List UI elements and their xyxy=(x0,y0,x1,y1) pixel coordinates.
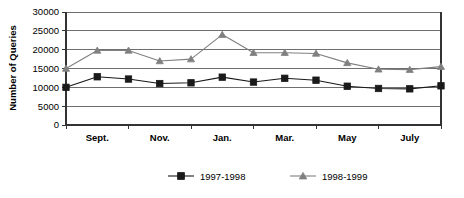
x-axis-tick-labels: Sept.Nov.Jan.Mar.MayJuly xyxy=(86,132,420,143)
y-tick-label: 20000 xyxy=(33,44,59,55)
data-point-marker-square xyxy=(188,80,194,86)
data-point-marker-square xyxy=(438,83,444,89)
x-tick-label: Jan. xyxy=(213,132,232,143)
x-tick-label: July xyxy=(400,132,420,143)
y-tick-label: 10000 xyxy=(33,82,59,93)
y-tick-label: 15000 xyxy=(33,63,59,74)
data-point-marker-square xyxy=(313,77,319,83)
y-axis-tick-labels: 050001000015000200002500030000 xyxy=(33,6,59,130)
x-tick-label: Sept. xyxy=(86,132,109,143)
data-point-marker-square xyxy=(219,74,225,80)
y-tick-label: 0 xyxy=(54,119,59,130)
y-tick-label: 25000 xyxy=(33,25,59,36)
x-tick-label: May xyxy=(338,132,357,143)
data-point-marker-square xyxy=(407,86,413,92)
data-point-marker-square xyxy=(282,75,288,81)
data-point-marker-square xyxy=(375,85,381,91)
legend-item-1[interactable]: 1997-1998 xyxy=(168,171,245,182)
x-tick-label: Nov. xyxy=(150,132,170,143)
legend-label: 1998-1999 xyxy=(322,171,367,182)
x-tick-label: Mar. xyxy=(275,132,294,143)
chart-legend: 1997-19981998-1999 xyxy=(168,171,367,182)
data-point-marker-square xyxy=(125,76,131,82)
y-axis-title: Number of Queries xyxy=(7,25,18,111)
y-tick-label: 5000 xyxy=(38,101,59,112)
queries-line-chart: Number of Queries 0500010000150002000025… xyxy=(0,0,464,198)
data-point-marker-square xyxy=(157,80,163,86)
data-point-marker-square xyxy=(178,173,185,180)
data-point-marker-square xyxy=(63,84,69,90)
chart-figure: Number of Queries 0500010000150002000025… xyxy=(0,0,464,198)
data-point-marker-square xyxy=(250,79,256,85)
legend-item-2[interactable]: 1998-1999 xyxy=(290,171,367,182)
legend-label: 1997-1998 xyxy=(200,171,245,182)
data-point-marker-square xyxy=(344,83,350,89)
data-point-marker-square xyxy=(94,74,100,80)
y-tick-label: 30000 xyxy=(33,6,59,17)
